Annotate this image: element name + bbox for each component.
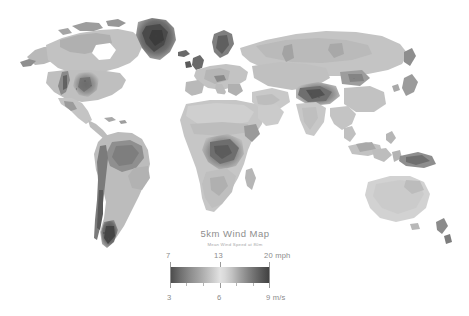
colorbar-top-tick-label-2: 20 mph (264, 251, 291, 260)
colorbar-bottom-minor-tick-1 (203, 283, 204, 286)
legend-subtitle: Mean Wind Speed at 80m (146, 241, 324, 248)
colorbar-bottom-tick-label-0: 3 (167, 293, 171, 302)
wind-map-figure: 5km Wind Map Mean Wind Speed at 80m 7 13… (0, 0, 469, 316)
legend-title: 5km Wind Map (146, 228, 324, 240)
colorbar-bottom-tick-0 (170, 283, 171, 288)
colorbar-bottom-tick-label-2: 9 m/s (266, 293, 286, 302)
colorbar-bottom-tick-2 (269, 283, 270, 288)
map-legend: 5km Wind Map Mean Wind Speed at 80m 7 13… (146, 228, 324, 306)
colorbar-bottom-tick-label-1: 6 (217, 293, 221, 302)
colorbar-top-tick-label-1: 13 (214, 251, 223, 260)
colorbar-bottom-minor-tick-2 (236, 283, 237, 286)
colorbar-top-tick-label-0: 7 (166, 251, 170, 260)
colorbar-bottom-minor-tick-0 (186, 283, 187, 286)
colorbar-scale: 7 13 20 mph 3 6 9 m/s (146, 251, 324, 303)
colorbar-gradient (170, 267, 270, 283)
colorbar-bottom-minor-tick-3 (253, 283, 254, 286)
colorbar-bottom-tick-1 (220, 283, 221, 288)
